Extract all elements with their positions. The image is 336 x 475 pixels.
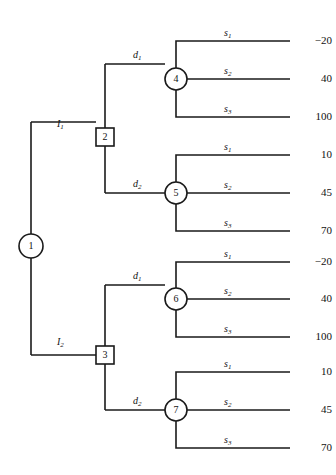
state-label-n7-s1: s1 (224, 359, 231, 371)
state-label-n6-s2: s2 (224, 286, 231, 298)
branch-label-I2: I2 (57, 337, 64, 349)
payoff-n7-s2: 45 (282, 404, 332, 415)
state-label-n4-s1: s1 (224, 28, 231, 40)
branch-label-I1-sub: 1 (60, 123, 64, 131)
edge-n7-s3 (176, 421, 290, 448)
node-2-label: 2 (95, 132, 115, 142)
node-group (19, 68, 187, 421)
state-label-n4-s3-sub: 3 (228, 108, 232, 116)
node-4-label: 4 (166, 74, 186, 84)
state-label-n5-s2-sub: 2 (228, 184, 232, 192)
state-label-n5-s3: s3 (224, 218, 231, 230)
state-label-n5-s2: s2 (224, 180, 231, 192)
payoff-n5-s1: 10 (282, 149, 332, 160)
state-label-n7-s3-sub: 3 (228, 439, 232, 447)
branch-label-I1: I1 (57, 119, 64, 131)
node-6-label: 6 (166, 294, 186, 304)
payoff-n4-s2: 40 (282, 73, 332, 84)
payoff-n5-s3: 70 (282, 225, 332, 236)
payoff-n5-s2: 45 (282, 187, 332, 198)
payoff-n7-s1: 10 (282, 366, 332, 377)
state-label-n4-s1-sub: 1 (228, 32, 232, 40)
state-label-n4-s2-sub: 2 (228, 70, 232, 78)
edge-group (31, 41, 290, 448)
state-label-n5-s1: s1 (224, 142, 231, 154)
branch-label-d1-node2-sub: 1 (138, 54, 142, 62)
branch-label-I2-sub: 2 (60, 341, 64, 349)
state-label-n5-s3-sub: 3 (228, 222, 232, 230)
state-label-n7-s2-sub: 2 (228, 401, 232, 409)
state-label-n7-s2: s2 (224, 397, 231, 409)
decision-tree-diagram: 1 2 3 4 5 6 7 I1 I2 d1 d2 d1 d2 s1 s2 s3… (0, 0, 336, 475)
edge-n4-s3 (176, 90, 290, 117)
edge-n5-s1 (176, 155, 290, 182)
branch-label-d1-node3: d1 (133, 271, 142, 283)
state-label-n6-s1: s1 (224, 249, 231, 261)
state-label-n6-s3: s3 (224, 324, 231, 336)
node-1-label: 1 (21, 241, 41, 251)
payoff-n4-s1: −20 (282, 35, 332, 46)
branch-label-d2-node2: d2 (133, 179, 142, 191)
state-label-n7-s1-sub: 1 (228, 363, 232, 371)
edge-n7-s1 (176, 372, 290, 399)
branch-label-d1-node3-sub: 1 (138, 275, 142, 283)
state-label-n4-s2: s2 (224, 66, 231, 78)
node-5-label: 5 (166, 188, 186, 198)
branch-label-d2-node3-sub: 2 (138, 400, 142, 408)
branch-label-d1-node2: d1 (133, 50, 142, 62)
payoff-n6-s3: 100 (282, 331, 332, 342)
state-label-n6-s1-sub: 1 (228, 253, 232, 261)
state-label-n5-s1-sub: 1 (228, 146, 232, 154)
branch-label-d2-node2-sub: 2 (138, 183, 142, 191)
edge-n6-s1 (176, 262, 290, 288)
state-label-n4-s3: s3 (224, 104, 231, 116)
edge-n6-s3 (176, 310, 290, 337)
payoff-n6-s1: −20 (282, 256, 332, 267)
state-label-n7-s3: s3 (224, 435, 231, 447)
state-label-n6-s3-sub: 3 (228, 328, 232, 336)
state-label-n6-s2-sub: 2 (228, 290, 232, 298)
branch-label-d2-node3: d2 (133, 396, 142, 408)
payoff-n4-s3: 100 (282, 111, 332, 122)
edge-n5-s3 (176, 204, 290, 231)
edge-n4-s1 (176, 41, 290, 68)
payoff-n6-s2: 40 (282, 293, 332, 304)
payoff-n7-s3: 70 (282, 442, 332, 453)
node-7-label: 7 (166, 405, 186, 415)
node-3-label: 3 (95, 350, 115, 360)
